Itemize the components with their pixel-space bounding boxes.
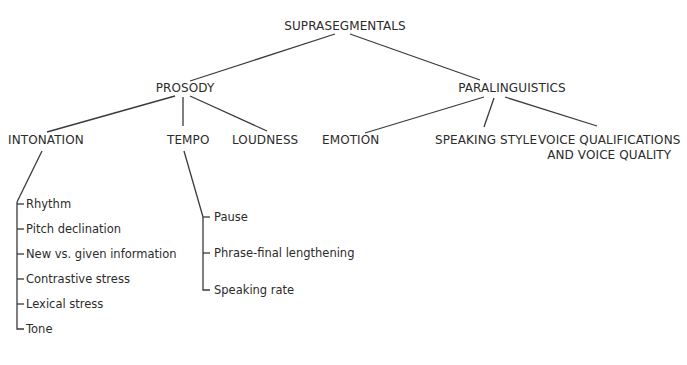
node-emotion: EMOTION [322,133,379,148]
node-tempo: TEMPO [167,133,209,148]
intonation-item-contrastive-stress: Contrastive stress [26,272,130,286]
voice-qualifications-line2: AND VOICE QUALITY [538,148,680,163]
intonation-item-rhythm: Rhythm [26,197,71,211]
node-voice-qualifications: VOICE QUALIFICATIONS AND VOICE QUALITY [538,133,680,163]
node-paralinguistics: PARALINGUISTICS [458,81,566,96]
node-suprasegmentals: SUPRASEGMENTALS [284,19,406,34]
tempo-item-pause: Pause [214,210,248,224]
tempo-item-phrase-final-lengthening: Phrase-final lengthening [214,246,354,260]
node-prosody: PROSODY [156,81,215,96]
intonation-item-pitch-declination: Pitch declination [26,222,121,236]
node-speaking-style: SPEAKING STYLE [435,133,537,148]
node-loudness: LOUDNESS [232,133,298,148]
voice-qualifications-line1: VOICE QUALIFICATIONS [538,133,680,148]
intonation-item-lexical-stress: Lexical stress [26,297,103,311]
intonation-item-new-vs-given: New vs. given information [26,247,177,261]
intonation-item-tone: Tone [26,322,52,336]
tempo-item-speaking-rate: Speaking rate [214,283,294,297]
node-intonation: INTONATION [8,133,84,148]
